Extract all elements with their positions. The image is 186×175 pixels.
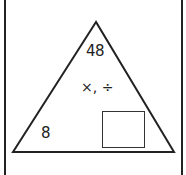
top-number: 48: [86, 44, 104, 59]
worksheet-card: 48 ×, ÷ 8: [0, 0, 186, 175]
left-number: 8: [41, 126, 51, 141]
operations-label: ×, ÷: [81, 80, 113, 94]
answer-input-box[interactable]: [102, 111, 145, 148]
